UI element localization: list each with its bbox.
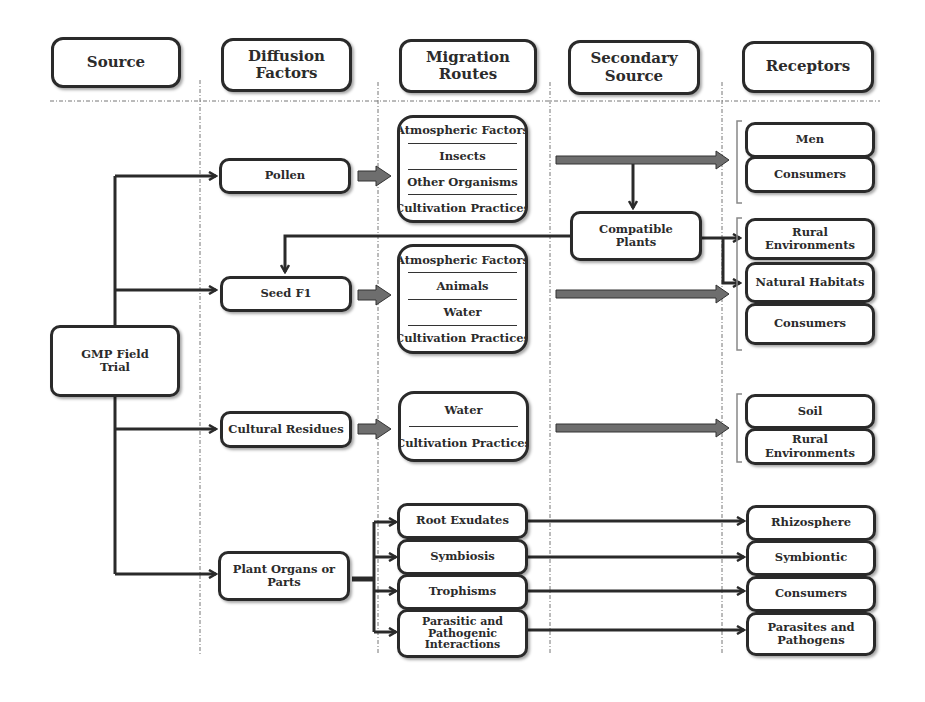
gmp-field-trial: GMP Field Trial: [50, 325, 180, 397]
route-item: Cultivation Practices: [409, 427, 518, 459]
receptor-consumers-3: Consumers: [746, 576, 876, 612]
route-parasitic-interactions: Parasitic and Pathogenic Interactions: [397, 609, 528, 658]
migration-routes-seed: Atmospheric Factors Animals Water Cultiv…: [397, 244, 528, 354]
route-item: Animals: [408, 273, 517, 299]
compatible-plants: Compatible Plants: [570, 211, 702, 261]
header-migration-routes: Migration Routes: [399, 39, 537, 93]
route-item: Other Organisms: [408, 170, 517, 196]
header-receptors: Receptors: [742, 41, 874, 93]
receptor-consumers-1: Consumers: [745, 156, 875, 193]
receptor-parasites-pathogens: Parasites and Pathogens: [746, 612, 876, 656]
diffusion-pollen: Pollen: [219, 158, 351, 194]
route-symbiosis: Symbiosis: [397, 539, 528, 575]
header-source: Source: [51, 37, 181, 88]
diagram-canvas: Source Diffusion Factors Migration Route…: [0, 0, 925, 702]
route-item: Atmospheric Factors: [408, 247, 517, 273]
diffusion-plant-organs: Plant Organs or Parts: [218, 551, 350, 601]
migration-routes-pollen: Atmospheric Factors Insects Other Organi…: [397, 115, 528, 223]
receptor-rural-environments-1: Rural Environments: [745, 218, 875, 260]
route-item: Cultivation Practices: [408, 326, 517, 351]
route-item: Insects: [408, 144, 517, 170]
header-diffusion-factors: Diffusion Factors: [221, 38, 352, 92]
receptor-brackets: [737, 121, 742, 462]
header-secondary-source: Secondary Source: [568, 40, 700, 95]
receptor-natural-habitats: Natural Habitats: [745, 262, 875, 303]
receptor-consumers-2: Consumers: [745, 303, 875, 345]
diffusion-seed-f1: Seed F1: [220, 276, 352, 312]
route-item: Water: [408, 300, 517, 326]
migration-routes-residues: Water Cultivation Practices: [398, 391, 529, 462]
route-item: Cultivation Practices: [408, 195, 517, 220]
receptor-rhizosphere: Rhizosphere: [746, 505, 876, 541]
diffusion-cultural-residues: Cultural Residues: [220, 411, 352, 448]
route-trophisms: Trophisms: [397, 574, 528, 610]
receptor-symbiontic: Symbiontic: [746, 540, 876, 576]
receptor-men: Men: [745, 122, 875, 158]
receptor-soil: Soil: [745, 394, 875, 429]
route-item: Atmospheric Factors: [408, 118, 517, 144]
route-item: Water: [409, 394, 518, 427]
receptor-rural-environments-2: Rural Environments: [745, 428, 875, 465]
route-root-exudates: Root Exudates: [397, 503, 528, 539]
